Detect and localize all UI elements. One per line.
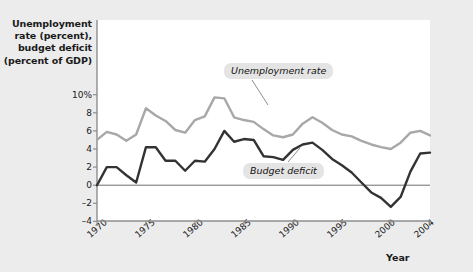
series-label-unemployment-rate: Unemployment rate (224, 63, 333, 79)
chart-canvas (0, 0, 473, 272)
series-lines (97, 97, 430, 207)
series-label-budget-deficit: Budget deficit (243, 163, 324, 179)
chart-figure: Unemployment rate (percent), budget defi… (0, 0, 473, 272)
axis-lines (97, 20, 430, 221)
